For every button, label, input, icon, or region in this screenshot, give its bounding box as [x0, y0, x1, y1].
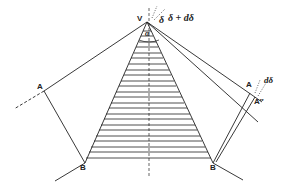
right-AB-1	[213, 93, 250, 163]
triangle-right-edge	[147, 22, 213, 163]
label-delta: δ	[159, 15, 164, 25]
label-vertex-v: V	[137, 15, 142, 23]
right-ray-1	[147, 22, 262, 102]
left-AB	[44, 91, 85, 163]
label-alpha: α	[145, 30, 149, 38]
label-d-delta: dδ	[264, 76, 273, 85]
label-left-a: A	[37, 83, 43, 91]
right-ray-2	[147, 22, 258, 122]
label-right-a-double-prime: A″	[254, 98, 264, 106]
label-right-a: A	[246, 81, 252, 89]
label-delta-plus-d-delta: δ + dδ	[168, 13, 194, 23]
left-ray-dashed	[14, 91, 44, 109]
perspective-diagram: V A B A A″ B α δ δ + dδ dδ	[0, 0, 296, 189]
label-left-b: B	[80, 164, 86, 172]
right-tail	[213, 163, 243, 180]
right-AB-2	[216, 97, 255, 162]
label-right-b: B	[210, 164, 216, 172]
